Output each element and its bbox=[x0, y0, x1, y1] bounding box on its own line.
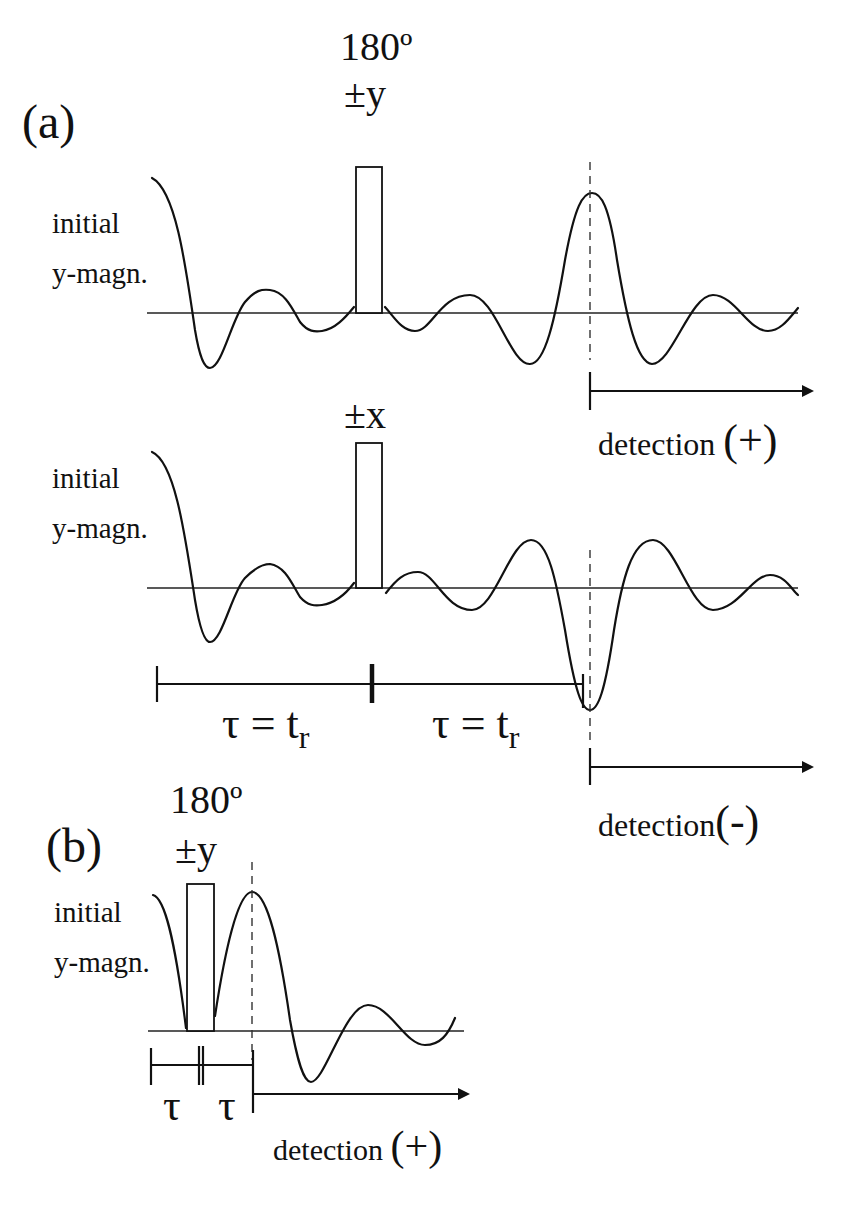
fid-trace-b bbox=[153, 895, 186, 1028]
interval-label-tau-2: τ bbox=[218, 1081, 236, 1130]
y-magnetization-label-line2: y-magn. bbox=[52, 257, 148, 289]
pulse-180-y bbox=[356, 167, 382, 313]
pulse-180-y-b bbox=[187, 884, 214, 1031]
panel-b-label: (b) bbox=[46, 819, 102, 873]
panel-a: (a) 180º ±y initial y-magn. detection (+… bbox=[22, 24, 812, 465]
echo-trace-top bbox=[385, 193, 798, 364]
panel-b: (b) 180º ±y initial y-magn. τ τ detectio… bbox=[46, 777, 468, 1170]
y-magnetization-label-line2: y-magn. bbox=[54, 946, 150, 978]
detection-label-top: detection (+) bbox=[598, 416, 777, 465]
pulse-phase-label-y: ±y bbox=[344, 71, 386, 116]
y-magnetization-label-line2: y-magn. bbox=[52, 512, 148, 544]
pulse-angle-label: 180º bbox=[340, 24, 412, 69]
pulse-phase-label-x: ±x bbox=[344, 392, 386, 437]
detection-label-middle: detection(-) bbox=[598, 797, 759, 846]
fid-trace-middle bbox=[152, 452, 354, 642]
pulse-angle-label: 180º bbox=[170, 777, 242, 822]
interval-label-1: τ = tr bbox=[222, 699, 310, 755]
interval-label-tau-1: τ bbox=[163, 1081, 181, 1130]
echo-trace-b bbox=[215, 892, 455, 1082]
detection-label-b: detection (+) bbox=[273, 1123, 442, 1170]
y-magnetization-label-line1: initial bbox=[54, 896, 122, 928]
panel-a-label: (a) bbox=[22, 95, 75, 149]
echo-pulse-sequence-diagram: (a) 180º ±y initial y-magn. detection (+… bbox=[0, 0, 861, 1231]
y-magnetization-label-line1: initial bbox=[52, 462, 120, 494]
fid-trace-top bbox=[152, 178, 354, 368]
pulse-180-x bbox=[356, 443, 382, 588]
y-magnetization-label-line1: initial bbox=[52, 207, 120, 239]
pulse-phase-label-y: ±y bbox=[175, 827, 217, 872]
interval-label-2: τ = tr bbox=[432, 699, 520, 755]
